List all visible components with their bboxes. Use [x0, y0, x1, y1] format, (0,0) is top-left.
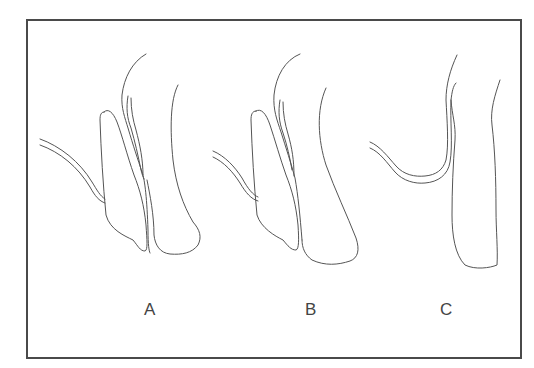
- panel-a-socket-line-2: [131, 98, 143, 175]
- panel-a-flap-inner: [40, 145, 105, 203]
- panel-a-flap-outer: [40, 139, 105, 199]
- panel-b-drawing: [213, 54, 358, 264]
- panel-c-flap-inner: [370, 83, 456, 183]
- panel-b-label: B: [305, 301, 316, 318]
- panel-b-flap-inner: [213, 157, 258, 201]
- panel-a-drawing: [40, 54, 200, 254]
- panel-c-tooth: [451, 80, 500, 268]
- panel-a-wedge: [100, 110, 147, 251]
- panel-c-label: C: [440, 301, 452, 318]
- panel-b-tooth: [302, 88, 358, 264]
- panel-c-drawing: [370, 55, 500, 268]
- figure-drawing: [0, 0, 534, 368]
- panel-a-socket-line-1: [127, 96, 144, 179]
- panel-b-root-curve: [274, 54, 302, 240]
- panel-a-tooth: [147, 85, 200, 254]
- panel-b-flap-outer: [213, 151, 258, 197]
- panel-b-wedge: [251, 110, 299, 250]
- panel-a-label: A: [144, 301, 155, 318]
